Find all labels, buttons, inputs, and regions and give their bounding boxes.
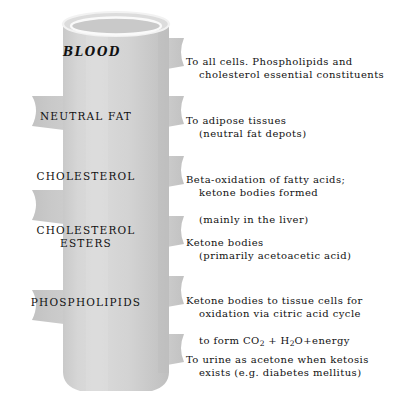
label-cholesterol-esters: CHOLESTEROL ESTERS [16, 224, 156, 250]
description-to-all-cells: To all cells. Phospholipids and choleste… [186, 41, 398, 95]
description-line-2: ketone bodies formed [186, 186, 398, 200]
label-blood: BLOOD [22, 46, 162, 59]
text-layer: BLOOD NEUTRAL FAT CHOLESTEROL CHOLESTERO… [0, 0, 401, 397]
label-neutral-fat: NEUTRAL FAT [16, 110, 156, 123]
description-line-1: Beta-oxidation of fatty acids; [186, 174, 345, 185]
description-line-1: Ketone bodies [186, 237, 264, 248]
description-adipose-tissues: To adipose tissues (neutral fat depots) [186, 100, 398, 154]
description-line-1: Ketone bodies to tissue cells for [186, 295, 363, 306]
description-line-2: cholesterol essential constituents [186, 68, 398, 82]
description-line-1: To urine as acetone when ketosis [186, 354, 369, 365]
label-cholesterol: CHOLESTEROL [16, 170, 156, 183]
description-ketone-bodies: Ketone bodies (primarily acetoacetic aci… [186, 222, 398, 276]
description-line-2: oxidation via citric acid cycle [186, 307, 398, 321]
description-line-1: To adipose tissues [186, 115, 286, 126]
description-line-2: (neutral fat depots) [186, 127, 398, 141]
description-line-2: exists (e.g. diabetes mellitus) [186, 366, 398, 380]
description-urine-acetone: To urine as acetone when ketosis exists … [186, 339, 398, 393]
lipid-transport-diagram: BLOOD NEUTRAL FAT CHOLESTEROL CHOLESTERO… [0, 0, 401, 397]
description-line-1: To all cells. Phospholipids and [186, 56, 353, 67]
label-phospholipids: PHOSPHOLIPIDS [16, 296, 156, 309]
description-line-2: (primarily acetoacetic acid) [186, 249, 398, 263]
